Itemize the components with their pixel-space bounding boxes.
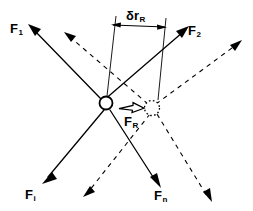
displaced-particle bbox=[145, 101, 160, 116]
dashed-line-fn bbox=[157, 114, 207, 196]
label-force-n-sub: n bbox=[162, 195, 167, 204]
label-force-n-base: F bbox=[154, 188, 162, 203]
resultant-force-arrow bbox=[119, 103, 144, 113]
label-force-i-sub: i bbox=[33, 194, 35, 203]
arrowhead-dashed-fi bbox=[83, 186, 95, 197]
label-force-n: Fn bbox=[154, 187, 167, 204]
label-displacement-base: δr bbox=[126, 8, 139, 23]
label-force-resultant: FR bbox=[124, 113, 138, 130]
solid-line-f1 bbox=[34, 30, 101, 99]
original-particle bbox=[100, 97, 113, 110]
arrowhead-dashed-fn bbox=[203, 188, 212, 202]
dimension-extension-lines bbox=[107, 16, 166, 100]
dashed-line-f2 bbox=[156, 45, 236, 104]
label-displacement: δrR bbox=[126, 7, 145, 24]
force-diagram-figure: F1 F2 Fi Fn FR δrR bbox=[0, 0, 253, 211]
label-force-resultant-sub: R bbox=[132, 121, 138, 130]
label-force-2-base: F bbox=[188, 23, 196, 38]
label-displacement-sub: R bbox=[139, 15, 145, 24]
label-force-1-base: F bbox=[10, 21, 18, 36]
label-force-i-base: F bbox=[25, 187, 33, 202]
label-force-i: Fi bbox=[25, 186, 36, 203]
label-force-2: F2 bbox=[188, 22, 201, 39]
dashed-force-lines bbox=[70, 37, 236, 196]
extension-line-right bbox=[158, 18, 166, 100]
arrowhead-fi bbox=[42, 172, 57, 184]
arrowhead-dimension-left bbox=[111, 23, 121, 28]
label-force-1: F1 bbox=[10, 20, 23, 37]
arrowhead-f1 bbox=[28, 24, 41, 36]
diagram-canvas bbox=[0, 0, 253, 211]
arrowhead-dashed-f1 bbox=[64, 32, 76, 42]
label-force-2-sub: 2 bbox=[196, 30, 200, 39]
label-force-1-sub: 1 bbox=[18, 28, 22, 37]
extension-line-left bbox=[107, 16, 116, 96]
resultant-arrow-shape bbox=[119, 103, 144, 113]
dashed-line-f1 bbox=[70, 37, 148, 104]
arrowhead-dashed-f2 bbox=[230, 40, 242, 51]
solid-line-fi bbox=[48, 110, 104, 177]
solid-line-f2 bbox=[103, 32, 183, 101]
label-force-resultant-base: F bbox=[124, 114, 132, 129]
